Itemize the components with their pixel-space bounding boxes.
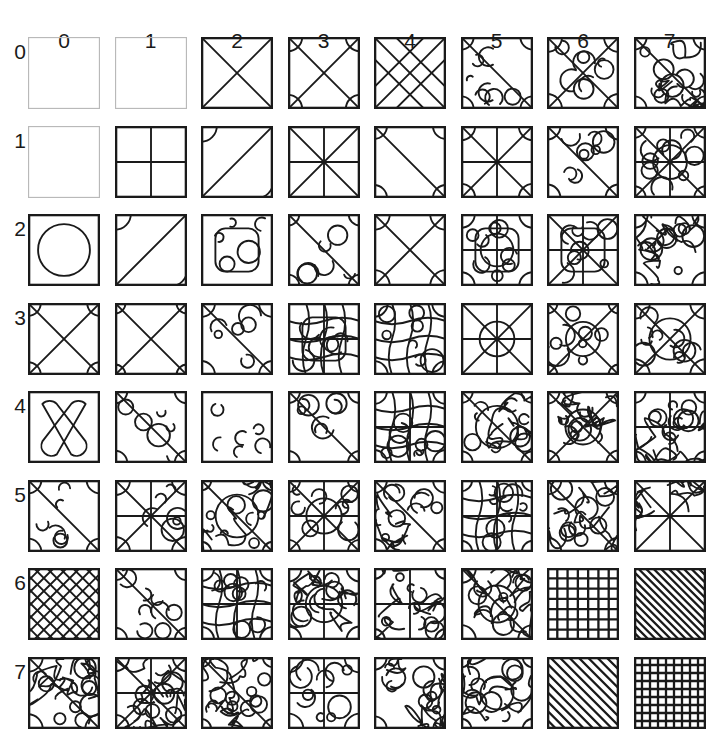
pattern-tile-r0-c1 <box>115 37 187 109</box>
pattern-tile-r5-c2 <box>201 480 273 552</box>
pattern-tile-r2-c6 <box>547 214 619 286</box>
pattern-tile-r1-c0 <box>28 126 100 198</box>
pattern-tile-r0-c2 <box>201 37 273 109</box>
row-label-6: 6 <box>4 572 26 593</box>
row-label-3: 3 <box>4 307 26 328</box>
pattern-tile-r6-c7 <box>634 568 706 640</box>
pattern-tile-r1-c3 <box>288 126 360 198</box>
row-label-5: 5 <box>4 484 26 505</box>
pattern-tile-r2-c5 <box>461 214 533 286</box>
row-label-0: 0 <box>4 41 26 62</box>
pattern-tile-r7-c6 <box>547 657 619 729</box>
row-label-4: 4 <box>4 395 26 416</box>
pattern-tile-r7-c0 <box>28 657 100 729</box>
pattern-tile-r2-c3 <box>288 214 360 286</box>
pattern-tile-r2-c2 <box>201 214 273 286</box>
pattern-tile-r1-c2 <box>201 126 273 198</box>
pattern-tile-r4-c4 <box>374 391 446 463</box>
pattern-tile-r3-c3 <box>288 303 360 375</box>
pattern-tile-r3-c5 <box>461 303 533 375</box>
pattern-tile-r2-c7 <box>634 214 706 286</box>
pattern-tile-r5-c4 <box>374 480 446 552</box>
pattern-tile-r7-c1 <box>115 657 187 729</box>
pattern-tile-r7-c3 <box>288 657 360 729</box>
pattern-tile-r7-c7 <box>634 657 706 729</box>
pattern-tile-r1-c1 <box>115 126 187 198</box>
pattern-tile-r1-c7 <box>634 126 706 198</box>
pattern-tile-r4-c6 <box>547 391 619 463</box>
pattern-tile-r4-c1 <box>115 391 187 463</box>
pattern-tile-r6-c5 <box>461 568 533 640</box>
pattern-tile-r4-c0 <box>28 391 100 463</box>
row-label-2: 2 <box>4 218 26 239</box>
pattern-tile-r0-c4 <box>374 37 446 109</box>
pattern-tile-r4-c7 <box>634 391 706 463</box>
pattern-tile-r7-c2 <box>201 657 273 729</box>
pattern-tile-r3-c0 <box>28 303 100 375</box>
pattern-tile-r6-c0 <box>28 568 100 640</box>
pattern-tile-r1-c4 <box>374 126 446 198</box>
pattern-tile-r6-c4 <box>374 568 446 640</box>
pattern-tile-r0-c3 <box>288 37 360 109</box>
pattern-tile-r6-c6 <box>547 568 619 640</box>
pattern-tile-r6-c2 <box>201 568 273 640</box>
pattern-tile-r3-c2 <box>201 303 273 375</box>
row-label-7: 7 <box>4 661 26 682</box>
pattern-tile-r1-c5 <box>461 126 533 198</box>
pattern-tile-r6-c3 <box>288 568 360 640</box>
pattern-tile-r3-c6 <box>547 303 619 375</box>
pattern-tile-r2-c4 <box>374 214 446 286</box>
row-label-1: 1 <box>4 130 26 151</box>
pattern-tile-r5-c1 <box>115 480 187 552</box>
pattern-tile-r4-c2 <box>201 391 273 463</box>
pattern-tile-r0-c6 <box>547 37 619 109</box>
pattern-tile-r0-c7 <box>634 37 706 109</box>
pattern-tile-r3-c7 <box>634 303 706 375</box>
pattern-tile-r5-c7 <box>634 480 706 552</box>
pattern-tile-r2-c1 <box>115 214 187 286</box>
pattern-tile-r0-c5 <box>461 37 533 109</box>
pattern-tile-r5-c6 <box>547 480 619 552</box>
pattern-tile-r2-c0 <box>28 214 100 286</box>
pattern-tile-r5-c5 <box>461 480 533 552</box>
pattern-tile-r3-c1 <box>115 303 187 375</box>
pattern-tile-r5-c0 <box>28 480 100 552</box>
pattern-tile-r7-c5 <box>461 657 533 729</box>
pattern-tile-r3-c4 <box>374 303 446 375</box>
pattern-tile-r4-c5 <box>461 391 533 463</box>
pattern-tile-r7-c4 <box>374 657 446 729</box>
pattern-tile-r1-c6 <box>547 126 619 198</box>
pattern-tile-r5-c3 <box>288 480 360 552</box>
pattern-matrix-figure: 01234567 01234567 <box>0 0 719 740</box>
pattern-tile-r4-c3 <box>288 391 360 463</box>
pattern-tile-r0-c0 <box>28 37 100 109</box>
pattern-tile-r6-c1 <box>115 568 187 640</box>
